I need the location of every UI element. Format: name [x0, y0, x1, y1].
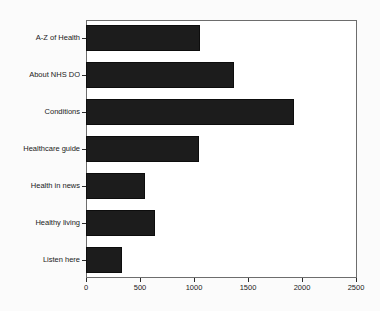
y-axis-tick	[82, 186, 86, 187]
x-axis-tick-label: 2000	[294, 283, 311, 293]
bars-layer	[86, 20, 357, 278]
y-axis-tick	[82, 38, 86, 39]
y-axis-label: Health in news	[0, 181, 80, 190]
x-axis-tick	[302, 278, 303, 282]
bar	[86, 247, 122, 273]
bar	[86, 173, 145, 199]
x-axis-tick	[140, 278, 141, 282]
y-axis-label: Healthy living	[0, 218, 80, 227]
bar	[86, 210, 155, 236]
y-axis-tick	[82, 149, 86, 150]
x-axis-tick	[248, 278, 249, 282]
bar	[86, 136, 199, 162]
y-axis-tick	[82, 75, 86, 76]
x-axis-tick	[86, 278, 87, 282]
bar	[86, 25, 200, 51]
y-axis-category-labels: A-Z of HealthAbout NHS DOConditionsHealt…	[0, 20, 80, 278]
bar	[86, 99, 294, 125]
x-axis-tick-label: 1000	[186, 283, 203, 293]
y-axis-label: A-Z of Health	[0, 33, 80, 42]
x-axis-tick-label: 1500	[240, 283, 257, 293]
x-axis-tick	[356, 278, 357, 282]
x-axis-tick	[194, 278, 195, 282]
y-axis-label: About NHS DO	[0, 70, 80, 79]
x-axis-tick-label: 0	[84, 283, 88, 293]
bar-chart: A-Z of HealthAbout NHS DOConditionsHealt…	[0, 0, 380, 311]
y-axis-tick	[82, 223, 86, 224]
y-axis-label: Healthcare guide	[0, 144, 80, 153]
y-axis-tick	[82, 260, 86, 261]
y-axis-label: Conditions	[0, 107, 80, 116]
y-axis-tick	[82, 112, 86, 113]
y-axis-label: Listen here	[0, 255, 80, 264]
bar	[86, 62, 234, 88]
x-axis-tick-label: 2500	[348, 283, 365, 293]
x-axis: 05001000150020002500	[0, 278, 380, 311]
x-axis-tick-label: 500	[134, 283, 147, 293]
